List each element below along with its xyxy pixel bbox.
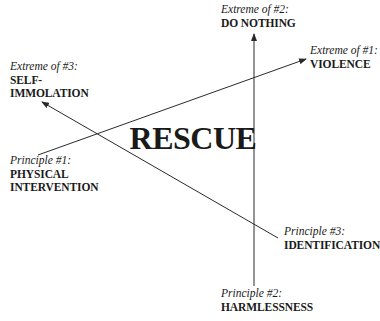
extreme-1-title: VIOLENCE <box>310 58 378 72</box>
principle-2-title: HARMLESSNESS <box>221 301 313 315</box>
extreme-3-caption: Extreme of #3: <box>10 60 89 74</box>
extreme-2-caption: Extreme of #2: <box>221 3 296 17</box>
extreme-1-label: Extreme of #1: VIOLENCE <box>310 44 378 71</box>
extreme-2-label: Extreme of #2: DO NOTHING <box>221 3 296 30</box>
principle-1-label: Principle #1: PHYSICAL INTERVENTION <box>10 154 99 195</box>
principle-2-label: Principle #2: HARMLESSNESS <box>221 287 313 314</box>
principle-3-caption: Principle #3: <box>284 225 380 239</box>
principle-1-title-line-2: INTERVENTION <box>10 181 99 195</box>
principle-3-title: IDENTIFICATION <box>284 239 380 253</box>
extreme-3-title-line-2: IMMOLATION <box>10 87 89 101</box>
center-title: RESCUE <box>108 120 278 156</box>
principle-1-caption: Principle #1: <box>10 154 99 168</box>
principle-3-label: Principle #3: IDENTIFICATION <box>284 225 380 252</box>
extreme-3-title-line-1: SELF- <box>10 74 89 88</box>
principle-2-caption: Principle #2: <box>221 287 313 301</box>
principle-1-title-line-1: PHYSICAL <box>10 168 99 182</box>
extreme-2-title: DO NOTHING <box>221 17 296 31</box>
extreme-1-caption: Extreme of #1: <box>310 44 378 58</box>
extreme-3-label: Extreme of #3: SELF- IMMOLATION <box>10 60 89 101</box>
